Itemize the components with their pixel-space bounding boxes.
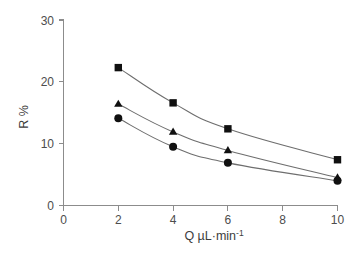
chart-background xyxy=(0,0,356,253)
data-point-circle xyxy=(224,159,232,167)
y-tick-label: 0 xyxy=(47,199,54,213)
data-point-square xyxy=(334,156,341,163)
x-axis-title-text: Q µL·min xyxy=(184,229,236,243)
x-tick-label: 0 xyxy=(60,213,67,227)
y-tick-label: 30 xyxy=(41,14,55,28)
x-tick-label: 10 xyxy=(331,213,345,227)
data-point-circle xyxy=(114,114,122,122)
line-chart: 0102030 0246810 R % Q µL·min-1 xyxy=(0,0,356,253)
x-axis-title-superscript: -1 xyxy=(236,228,244,238)
x-tick-label: 4 xyxy=(170,213,177,227)
x-tick-label: 8 xyxy=(279,213,286,227)
y-axis-title: R % xyxy=(17,105,31,129)
data-point-square xyxy=(224,125,231,132)
x-axis-title: Q µL·min-1 xyxy=(184,228,243,243)
x-tick-label: 2 xyxy=(115,213,122,227)
x-tick-label: 6 xyxy=(225,213,232,227)
data-point-circle xyxy=(334,177,342,185)
data-point-square xyxy=(169,99,176,106)
y-tick-label: 20 xyxy=(41,75,55,89)
data-point-circle xyxy=(169,143,177,151)
y-tick-label: 10 xyxy=(41,137,55,151)
data-point-square xyxy=(115,64,122,71)
chart-container: 0102030 0246810 R % Q µL·min-1 xyxy=(0,0,356,253)
